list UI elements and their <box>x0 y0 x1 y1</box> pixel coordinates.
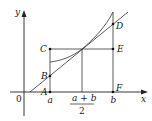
y-axis-arrow-icon <box>22 10 27 17</box>
tick-midpoint-denominator: 2 <box>79 106 85 116</box>
point-E <box>112 48 115 51</box>
tangent-trapezoid-diagram: y x 0 A B C D E F a a + b 2 b <box>0 0 152 121</box>
tick-b-label: b <box>111 95 117 105</box>
origin-label: 0 <box>16 94 22 104</box>
point-B <box>49 75 52 78</box>
point-C <box>49 48 52 51</box>
function-curve <box>50 12 113 62</box>
diagram-canvas: y x 0 A B C D E F a a + b 2 b <box>0 0 152 121</box>
y-axis-label: y <box>14 7 21 17</box>
point-D <box>112 23 115 26</box>
point-C-label: C <box>40 44 47 54</box>
x-axis-label: x <box>141 94 146 104</box>
point-F-label: F <box>115 83 123 93</box>
point-F <box>112 91 115 94</box>
tick-a-label: a <box>48 95 53 105</box>
point-E-label: E <box>116 44 124 54</box>
point-D-label: D <box>115 21 123 31</box>
point-A <box>49 91 52 94</box>
point-B-label: B <box>40 71 48 81</box>
tick-midpoint-numerator: a + b <box>72 93 97 103</box>
